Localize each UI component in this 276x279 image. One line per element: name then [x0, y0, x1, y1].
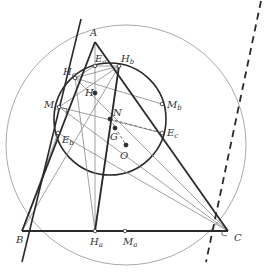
label-g: G — [110, 131, 118, 142]
tangent-line-dashed — [206, 1, 261, 262]
label-o: O — [120, 150, 128, 161]
label-b: B — [15, 234, 23, 245]
label-ha: Ha — [89, 236, 103, 249]
geometry-diagram: ABCHaHbHcMaMbMcEaEbEcHNGO — [0, 0, 276, 279]
label-ma: Ma — [122, 236, 137, 249]
edge-A-B — [22, 42, 95, 231]
label-c: C — [234, 232, 242, 243]
point-o — [124, 143, 128, 147]
point-eb — [56, 131, 60, 135]
segment-C-Eb — [58, 133, 228, 231]
point-ea — [93, 64, 97, 68]
point-g — [113, 126, 117, 130]
label-n: N — [112, 107, 123, 118]
point-mb — [160, 102, 164, 106]
label-h: H — [84, 87, 94, 98]
segment-B-Hb — [22, 66, 119, 231]
diagram-canvas: ABCHaHbHcMaMbMcEaEbEcHNGO — [0, 0, 276, 279]
point-hb — [117, 64, 121, 68]
segment-Hc-Ha — [75, 78, 95, 231]
label-mb: Mb — [166, 99, 182, 112]
points — [56, 64, 164, 233]
label-eb: Eb — [61, 134, 74, 147]
label-a: A — [89, 27, 97, 38]
label-hc: Hc — [62, 66, 76, 79]
labels: ABCHaHbHcMaMbMcEaEbEcHNGO — [15, 27, 242, 249]
point-ha — [93, 229, 97, 233]
label-ec: Ec — [166, 127, 178, 140]
point-ma — [123, 229, 127, 233]
label-mc: Mc — [43, 99, 58, 112]
point-n — [108, 117, 112, 121]
point-ec — [160, 131, 164, 135]
